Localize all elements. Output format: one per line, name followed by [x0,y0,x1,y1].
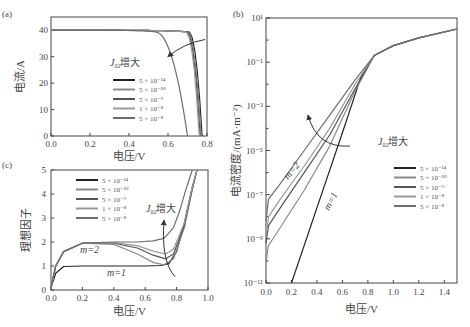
panel-b: 0.00.20.40.60.81.01.21.410¹10⁻¹10⁻³10⁻⁵1… [229,9,457,315]
y-tick-label: 10⁻¹¹ [244,278,263,288]
legend-a-label: 1 × 10⁻⁸ [139,105,164,113]
x-tick-label: 0.2 [77,293,88,303]
legend-c-label: 5 × 10⁻⁸ [102,215,127,223]
x-axis-label: 电压/V [345,303,378,315]
annotation-j02: J02增大 [110,56,140,69]
annotation-m2: m=2 [281,160,302,182]
x-tick-label: 0.6 [162,139,174,149]
figure: 0.00.20.40.60.8010203040电压/V电流/A(a)J02增大… [0,0,470,327]
legend-b-label: 5 × 10⁻⁸ [420,203,445,211]
y-axis-label: 电流/A [13,60,26,93]
series-line-0 [292,29,458,283]
y-axis-label: 电流密度/(mA·m⁻²) [229,104,243,197]
series-line-0 [51,30,202,136]
annotation-j02: J02增大 [146,202,176,215]
y-tick-label: 10⁻¹ [247,57,264,67]
annotation-j02: J02增大 [378,135,408,148]
annotation-m1: m=1 [321,190,340,212]
y-tick-label: 10¹ [251,13,263,23]
legend-b-label: 1 × 10⁻⁸ [420,193,445,201]
x-tick-label: 0.8 [362,287,374,297]
y-axis-label: 理想因子 [19,208,32,252]
x-tick-label: 0.8 [201,139,213,149]
legend-b-label: 5 × 10⁻⁹ [420,184,445,192]
y-tick-label: 1 [42,261,47,271]
y-tick-label: 3 [42,213,47,223]
legend-a-label: 5 × 10⁻¹⁴ [139,77,166,85]
x-tick-label: 0.6 [337,287,349,297]
x-tick-label: 0.4 [123,139,135,149]
annotation-arrow [168,39,205,56]
panel-label: (a) [2,9,12,19]
y-tick-label: 4 [42,189,47,199]
legend-a-label: 5 × 10⁻⁸ [139,115,164,123]
x-tick-label: 0.2 [84,139,95,149]
panel-label: (c) [2,160,12,170]
annotation-m1: m=1 [107,267,126,278]
x-tick-label: 1.0 [388,287,400,297]
x-tick-label: 1.4 [439,287,451,297]
y-tick-label: 5 [42,165,47,175]
legend-c-label: 5 × 10⁻¹⁴ [102,177,129,185]
legend-a-label: 5 × 10⁻¹⁰ [139,86,166,94]
y-tick-label: 2 [42,237,47,247]
y-tick-label: 10 [39,105,49,115]
y-tick-label: 10⁻⁵ [246,146,263,156]
x-axis-label: 电压/V [113,305,146,317]
x-tick-label: 1.2 [413,287,424,297]
y-tick-label: 40 [39,25,49,35]
y-tick-label: 10⁻⁷ [246,190,263,200]
legend-c-label: 5 × 10⁻⁹ [102,196,127,204]
series-line-3 [51,30,199,136]
y-tick-label: 0 [44,131,49,141]
x-tick-label: 0.8 [171,293,183,303]
y-tick-label: 20 [39,78,49,88]
y-tick-label: 10⁻⁹ [246,234,263,244]
annotation-arrow [308,115,350,146]
legend-b-label: 5 × 10⁻¹⁰ [420,174,447,182]
y-tick-label: 0 [42,285,47,295]
legend-b-label: 5 × 10⁻¹⁴ [420,165,447,173]
panel-c-frame [51,170,208,290]
x-tick-label: 0.4 [311,287,323,297]
panel-label: (b) [233,9,244,19]
legend-a-label: 5 × 10⁻⁹ [139,96,164,104]
x-tick-label: 0.2 [286,287,297,297]
panel-a: 0.00.20.40.60.8010203040电压/V电流/A(a)J02增大… [2,9,213,162]
panel-b-frame [266,18,457,283]
series-line-4 [51,30,188,136]
series-line-2 [266,29,457,243]
x-tick-label: 0.0 [45,293,57,303]
legend-c-label: 1 × 10⁻⁸ [102,205,127,213]
series-line-1 [266,29,457,261]
x-tick-label: 0.6 [140,293,152,303]
x-tick-label: 0.0 [260,287,272,297]
x-tick-label: 0.4 [108,293,120,303]
panel-c: 0.00.20.40.60.81.0012345电压/V理想因子(c)J02增大… [2,160,214,317]
legend-c-label: 5 × 10⁻¹⁰ [102,186,129,194]
x-tick-label: 1.0 [202,293,214,303]
x-axis-label: 电压/V [113,150,146,162]
y-tick-label: 30 [39,52,49,62]
y-tick-label: 10⁻³ [247,101,264,111]
annotation-m2: m=2 [80,244,99,255]
